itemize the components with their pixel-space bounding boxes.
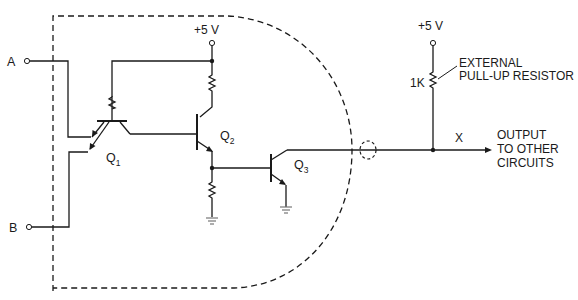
resistor-pullup — [430, 46, 436, 150]
supply-internal-terminal — [209, 40, 214, 45]
ground-icon — [206, 218, 218, 224]
label-q1: Q1 — [106, 151, 121, 168]
label-supply-external: +5 V — [418, 19, 443, 33]
label-pullup-line1: EXTERNAL — [459, 56, 523, 70]
input-a-terminal[interactable] — [24, 58, 29, 63]
label-input-a: A — [7, 55, 16, 69]
transistor-q2 — [197, 114, 213, 168]
label-supply-internal: +5 V — [194, 23, 219, 37]
junction-output — [431, 148, 435, 152]
resistor-q2-emitter — [209, 168, 215, 217]
supply-external-terminal — [430, 40, 435, 45]
label-q2: Q2 — [220, 129, 235, 146]
input-b-terminal[interactable] — [26, 224, 31, 229]
ic-boundary — [53, 16, 352, 291]
output-arrow-icon — [485, 147, 492, 153]
label-output-line1: OUTPUT — [497, 128, 547, 142]
transistor-q3 — [271, 150, 287, 207]
ground-icon — [280, 207, 292, 213]
resistor-q1-base — [109, 61, 212, 109]
label-output-line2: TO OTHER — [497, 142, 559, 156]
label-pullup-line2: PULL-UP RESISTOR — [459, 69, 574, 83]
transistor-q1 — [90, 108, 198, 150]
resistor-q2-collector — [200, 61, 215, 117]
pullup-leader-line — [438, 66, 457, 79]
label-input-b: B — [9, 221, 17, 235]
label-pullup-value: 1K — [410, 76, 425, 90]
label-q3: Q3 — [294, 158, 309, 175]
wire-a — [30, 61, 91, 137]
circuit-diagram: A B +5 V +5 V Q1 Q2 Q3 1K EXTERNAL PULL-… — [0, 0, 578, 300]
wire-b — [32, 152, 88, 227]
label-output-line3: CIRCUITS — [497, 156, 554, 170]
label-output-node: X — [455, 131, 463, 145]
